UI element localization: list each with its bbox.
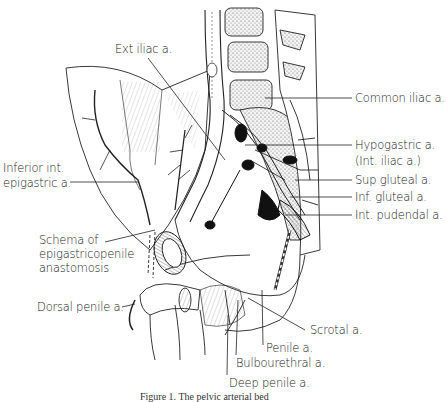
label-int-pudendal: Int. pudendal a. (355, 209, 442, 221)
label-bulbourethral: Bulbourethral a. (236, 357, 325, 369)
abdominal-wall (66, 66, 210, 250)
label-hypogastric: Hypogastric a. (355, 139, 435, 151)
label-dorsal-penile: Dorsal penile a. (37, 301, 124, 313)
label-scrotal: Scrotal a. (310, 324, 362, 336)
label-common-iliac: Common iliac a. (355, 92, 445, 104)
label-penile: Penile a. (266, 342, 313, 354)
label-epigastricopenile: epigastricopenile (39, 248, 134, 260)
label-inferior-int: Inferior int. (3, 162, 64, 174)
label-ext-iliac: Ext iliac a. (115, 43, 172, 55)
label-int-iliac: (Int. iliac a.) (355, 155, 421, 167)
label-deep-penile: Deep penile a. (229, 377, 310, 389)
figure-caption: Figure 1. The pelvic arterial bed (140, 391, 269, 402)
label-anastomosis: anastomosis (39, 262, 109, 274)
label-inf-gluteal: Inf. gluteal a. (355, 191, 427, 203)
label-sup-gluteal: Sup gluteal a. (355, 174, 431, 186)
label-schema-of: Schema of (39, 234, 98, 246)
label-epigastric: epigastric a. (3, 177, 71, 189)
